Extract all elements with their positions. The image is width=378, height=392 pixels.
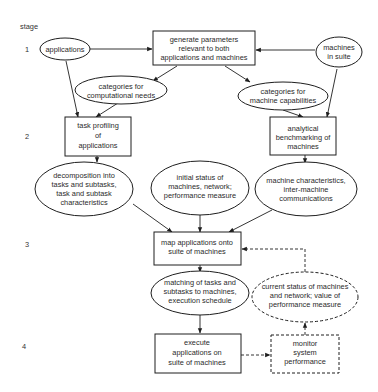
edge-machines-to-benchmarking [327, 69, 337, 117]
node-task-profiling: task profiling of applications [65, 117, 131, 156]
svg-text:tasks and subtasks,: tasks and subtasks, [52, 180, 117, 189]
svg-text:performance: performance [284, 357, 326, 366]
svg-text:relevant to both: relevant to both [179, 44, 230, 53]
stage-4-label: 4 [22, 342, 26, 351]
svg-text:categories for: categories for [261, 87, 306, 96]
svg-text:analytical: analytical [288, 124, 319, 133]
svg-text:machine capabilities: machine capabilities [250, 96, 317, 105]
node-categories-computational: categories for computational needs [75, 76, 167, 104]
svg-text:and network; value of: and network; value of [270, 291, 341, 300]
svg-text:benchmarking of: benchmarking of [276, 133, 332, 142]
svg-text:execute: execute [184, 338, 210, 347]
stage-header: stage [20, 22, 38, 31]
svg-text:machine characteristics,: machine characteristics, [266, 176, 345, 185]
svg-text:communications: communications [279, 194, 333, 203]
node-decomposition: decomposition into tasks and subtasks, t… [35, 162, 133, 216]
edge-generate-to-categories-machine [225, 66, 250, 82]
node-execute: execute applications on suite of machine… [155, 334, 241, 373]
svg-text:map applications onto: map applications onto [161, 238, 233, 247]
svg-text:subtasks to machines,: subtasks to machines, [163, 287, 236, 296]
node-categories-machine: categories for machine capabilities [238, 82, 328, 110]
svg-text:applications on: applications on [172, 348, 221, 357]
svg-text:applications and machines: applications and machines [160, 53, 247, 62]
stage-2-label: 2 [25, 132, 29, 141]
svg-text:machines, network;: machines, network; [168, 182, 232, 191]
svg-text:generate parameters: generate parameters [170, 35, 239, 44]
svg-text:decomposition into: decomposition into [53, 171, 115, 180]
node-monitor: monitor system performance [271, 335, 339, 373]
svg-text:categories for: categories for [99, 82, 144, 91]
edge-current-status-to-map [242, 249, 305, 272]
node-machines-in-suite: machines in suite [316, 37, 362, 67]
svg-text:computational needs: computational needs [87, 91, 156, 100]
node-current-status: current status of machines and network; … [252, 272, 358, 322]
svg-text:task and subtask: task and subtask [56, 189, 112, 198]
svg-text:suite of machines: suite of machines [168, 247, 226, 256]
edge-decomposition-to-map [133, 204, 172, 232]
svg-text:characteristics: characteristics [60, 198, 108, 207]
svg-text:monitor: monitor [293, 339, 318, 348]
edge-generate-to-categories-computational [153, 66, 177, 81]
svg-text:applications: applications [45, 45, 84, 54]
svg-text:system: system [293, 348, 316, 357]
svg-text:suite of machines: suite of machines [168, 358, 226, 367]
svg-text:matching of tasks and: matching of tasks and [164, 278, 236, 287]
stage-3-label: 3 [25, 240, 29, 249]
svg-text:execution schedule: execution schedule [168, 296, 231, 305]
node-analytical-benchmarking: analytical benchmarking of machines [270, 117, 336, 155]
stage-1-label: 1 [25, 45, 29, 54]
edge-categories-machine-to-benchmarking [283, 110, 303, 117]
node-initial-status: initial status of machines, network; per… [151, 161, 249, 215]
node-matching: matching of tasks and subtasks to machin… [151, 271, 249, 315]
node-generate-parameters: generate parameters relevant to both app… [153, 31, 255, 65]
svg-text:task profiling: task profiling [77, 121, 119, 130]
node-applications: applications [40, 38, 90, 60]
node-machine-characteristics: machine characteristics, inter-machine c… [255, 162, 357, 216]
svg-text:initial status of: initial status of [177, 173, 225, 182]
heterogeneous-computing-flow-diagram: stage 1 2 3 4 applications generate para… [0, 0, 378, 392]
node-map-applications: map applications onto suite of machines [154, 232, 241, 265]
svg-text:performance measure: performance measure [164, 191, 236, 200]
svg-text:inter-machine: inter-machine [284, 185, 329, 194]
svg-text:performance measure: performance measure [269, 300, 341, 309]
svg-text:machines: machines [323, 43, 355, 52]
svg-text:in suite: in suite [327, 52, 350, 61]
svg-text:current status of machines: current status of machines [262, 282, 349, 291]
edge-machine-characteristics-to-map [229, 210, 272, 232]
edge-categories-computational-to-task-profiling [96, 103, 118, 117]
svg-text:machines: machines [287, 142, 319, 151]
svg-text:of: of [95, 131, 102, 140]
svg-text:applications: applications [78, 141, 117, 150]
